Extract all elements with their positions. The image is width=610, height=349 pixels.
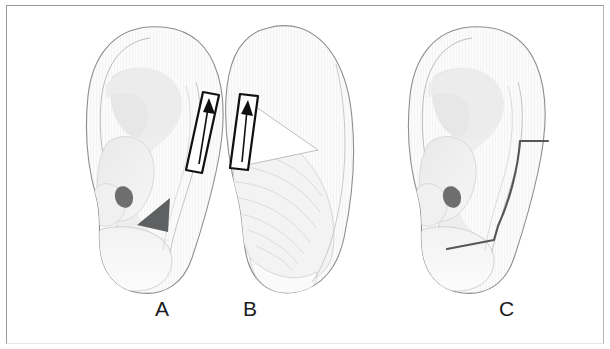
panel-label-c: C [499, 298, 514, 319]
panel-b-ear [226, 26, 354, 295]
panel-a-ear [86, 27, 223, 294]
panel-c-ear [408, 27, 548, 294]
panel-label-b: B [243, 298, 257, 319]
ear-surgery-figure: A B C [0, 0, 610, 349]
illustration-canvas [0, 0, 610, 349]
panel-label-a: A [155, 298, 169, 319]
